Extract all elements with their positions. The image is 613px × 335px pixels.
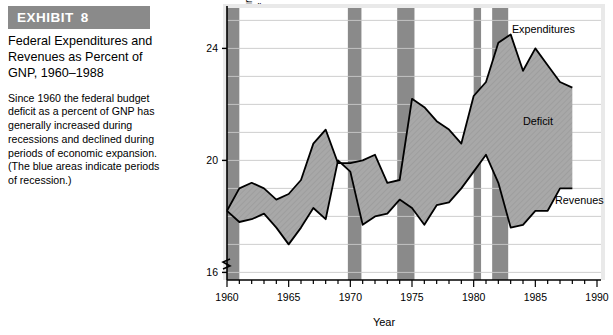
x-axis-label: Year xyxy=(168,316,600,328)
x-tick-label-1980: 1980 xyxy=(462,291,486,303)
x-tick-label-1960: 1960 xyxy=(215,291,239,303)
y-tick-label-20: 20 xyxy=(206,154,218,166)
caption-description: Since 1960 the federal budget deficit as… xyxy=(8,92,164,188)
annotation-deficit: Deficit xyxy=(523,115,553,127)
annotation-expenditures: Expenditures xyxy=(512,23,576,35)
x-tick-label-1970: 1970 xyxy=(339,291,363,303)
page-title: Federal Expenditures and Revenues as Per… xyxy=(8,34,166,82)
x-tick-label-1965: 1965 xyxy=(277,291,301,303)
y-tick-label-24: 24 xyxy=(206,42,218,54)
exhibit-banner-number: 8 xyxy=(81,10,89,25)
chart-plot: 1620241960196519701975198019851990Expend… xyxy=(168,0,613,315)
x-tick-label-1985: 1985 xyxy=(524,291,548,303)
exhibit-banner-label: EXHIBIT xyxy=(17,10,74,25)
y-tick-label-16: 16 xyxy=(206,266,218,278)
annotation-revenues: Revenues xyxy=(555,194,604,206)
x-tick-label-1975: 1975 xyxy=(400,291,424,303)
exhibit-caption: EXHIBIT8 Federal Expenditures and Revenu… xyxy=(8,6,168,188)
chart-container: Federal government expenditures and reve… xyxy=(168,0,613,335)
exhibit-banner: EXHIBIT8 xyxy=(8,6,150,29)
x-tick-label-1990: 1990 xyxy=(585,291,609,303)
